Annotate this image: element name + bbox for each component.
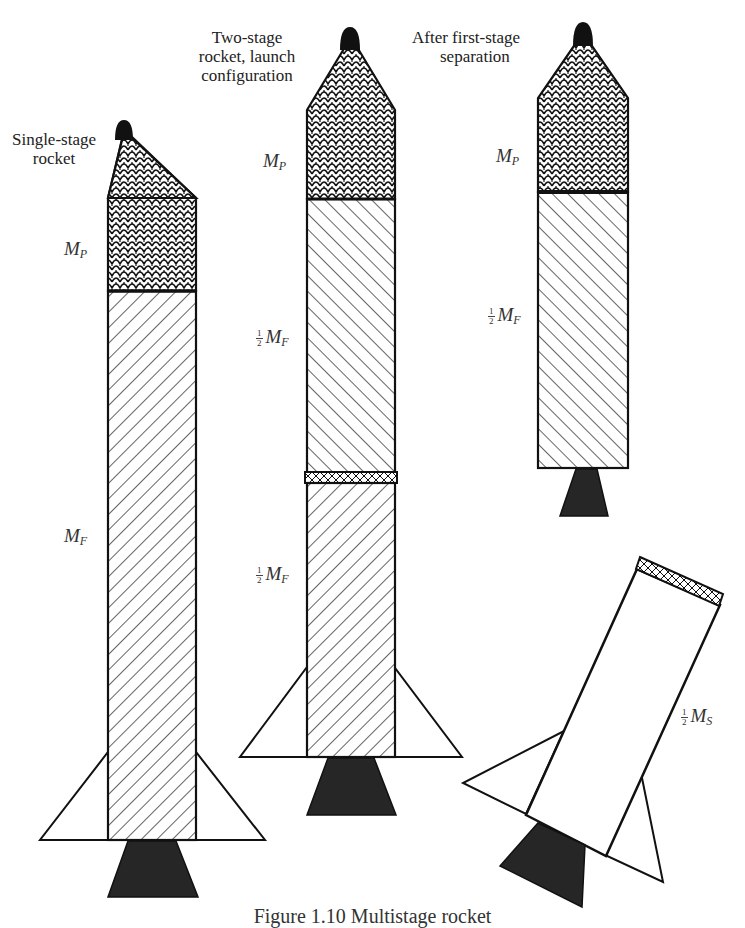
title-two-stage: Two-stage rocket, launch configuration [186, 28, 308, 85]
title-single-stage: Single-stage rocket [4, 130, 104, 168]
nozzle [108, 841, 198, 897]
right-fin [196, 752, 265, 840]
nozzle [307, 758, 396, 815]
label-fuel-mass: 12MF [488, 304, 521, 328]
label-payload-mass: MP [263, 150, 286, 174]
left-fin [40, 752, 108, 840]
left-fin [240, 667, 307, 757]
two-stage-rocket [240, 27, 462, 815]
fuel-tank [108, 291, 196, 840]
lower-stage-fuel [307, 483, 395, 757]
label-structure-mass: 12MS [681, 705, 712, 729]
label-fuel-mass: MF [64, 525, 87, 549]
title-after-separation: After first-stage separation [412, 28, 552, 66]
label-upper-fuel-mass: 12MF [256, 326, 289, 350]
interstage-band [305, 472, 397, 483]
separated-first-stage [463, 557, 723, 907]
right-fin [395, 668, 462, 757]
figure-caption: Figure 1.10 Multistage rocket [0, 905, 745, 928]
label-payload-mass: MP [64, 238, 87, 262]
label-lower-fuel-mass: 12MF [256, 563, 289, 587]
nose-tip [115, 120, 133, 140]
after-separation-rocket [538, 22, 628, 516]
upper-stage-fuel [307, 199, 395, 473]
single-stage-rocket [40, 120, 265, 897]
label-payload-mass: MP [496, 145, 519, 169]
payload-section [307, 47, 395, 199]
nose-tip [573, 22, 593, 46]
nozzle [560, 469, 608, 516]
nose-tip [340, 27, 360, 50]
upper-stage-fuel [538, 192, 628, 468]
